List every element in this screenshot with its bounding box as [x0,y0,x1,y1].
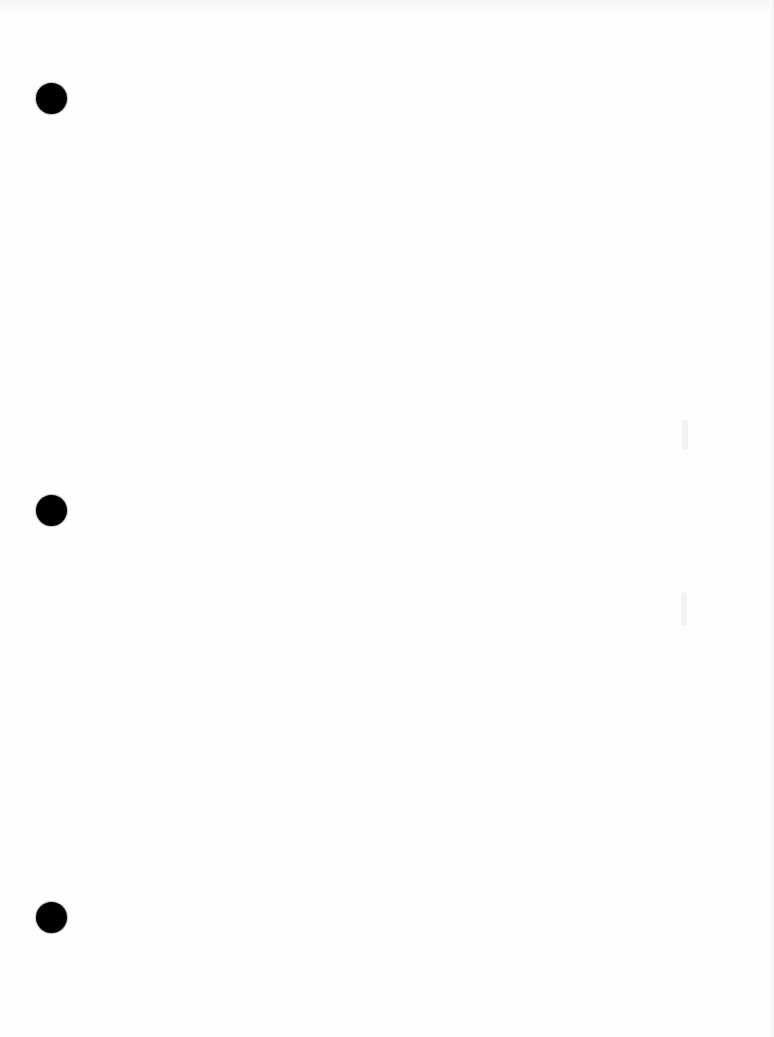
punch-hole-middle-icon [36,495,67,526]
scan-bleed-top-edge [0,0,774,14]
punch-hole-top-icon [36,83,67,114]
scan-smudge [681,592,687,626]
scan-smudge [682,420,688,450]
page-right-edge [770,0,774,1037]
punch-hole-bottom-icon [36,902,67,933]
blank-page [0,0,774,1037]
